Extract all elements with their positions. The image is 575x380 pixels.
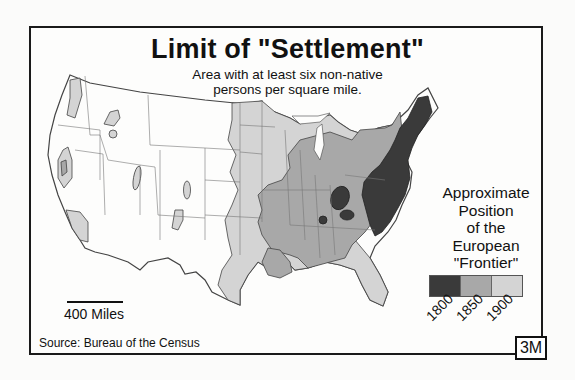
frontier-1900-idaho (109, 130, 117, 138)
frontier-1800-tennessee (319, 216, 327, 224)
legend-title: Approximate Position of the European "Fr… (422, 184, 550, 272)
legend-title-line: "Frontier" (422, 254, 550, 272)
legend-title-line: European (422, 237, 550, 255)
scale-bar-line (67, 301, 123, 303)
page-badge: 3M (515, 336, 547, 360)
source-caption: Source: Bureau of the Census (39, 336, 200, 350)
frontier-1900-colorado (184, 181, 191, 199)
legend-title-line: Approximate (422, 184, 550, 202)
frontier-1800-kentucky (340, 210, 354, 220)
legend-title-line: of the (422, 219, 550, 237)
scale-bar-label: 400 Miles (64, 306, 124, 322)
legend-title-line: Position (422, 202, 550, 220)
